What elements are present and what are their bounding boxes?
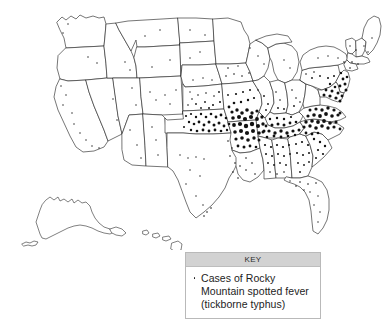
inset-hawaii-big-island <box>171 241 182 250</box>
inset-hawaii-kauai <box>143 230 149 235</box>
state-washington <box>57 15 106 48</box>
inset-alaska-aleutians <box>22 241 38 246</box>
state-oregon <box>57 46 107 81</box>
inset-hawaii-maui <box>163 236 171 241</box>
state-louisiana <box>232 148 264 182</box>
legend-entry: Cases of Rocky Mountain spotted fever (t… <box>186 267 320 318</box>
inset-alaska <box>36 197 114 239</box>
dot-density-map-figure: KEY Cases of Rocky Mountain spotted feve… <box>0 0 385 328</box>
state-michigan <box>268 43 299 83</box>
legend-entry-label: Cases of Rocky Mountain spotted fever (t… <box>201 272 313 311</box>
state-outlines-group <box>54 15 381 234</box>
state-minnesota <box>213 18 250 64</box>
inset-outlines-group <box>22 197 182 250</box>
legend-dot-icon <box>192 272 197 279</box>
map-legend: KEY Cases of Rocky Mountain spotted feve… <box>185 252 321 319</box>
state-vermont <box>346 38 356 54</box>
state-florida <box>284 176 329 234</box>
state-maine <box>362 16 381 55</box>
us-map <box>0 0 385 250</box>
inset-alaska-panhandle <box>110 227 126 236</box>
state-new-york <box>300 46 348 70</box>
us-map-svg <box>0 0 385 250</box>
state-new-mexico <box>143 114 168 167</box>
state-nebraska <box>181 64 222 87</box>
inset-hawaii-oahu <box>153 233 160 238</box>
legend-header-label: KEY <box>186 253 320 267</box>
state-north-dakota <box>178 18 214 45</box>
state-wyoming <box>134 45 181 78</box>
state-colorado <box>140 76 183 115</box>
